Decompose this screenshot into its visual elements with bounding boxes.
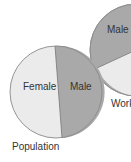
work-male-label: Male	[107, 24, 129, 35]
population-male-label: Male	[70, 81, 92, 92]
population-female-label: Female	[23, 81, 57, 92]
pie-charts: Female Male Male Work Population	[0, 0, 131, 162]
work-title: Work	[111, 98, 131, 109]
population-title: Population	[12, 141, 59, 152]
